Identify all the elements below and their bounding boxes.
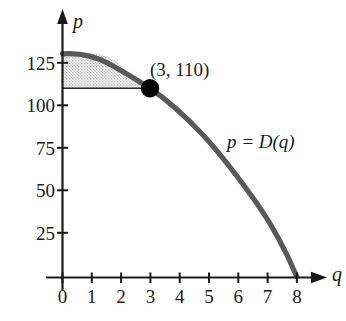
marked-point-dot [141,79,159,97]
x-tick-label-4: 4 [175,287,185,306]
x-axis-label: q [332,264,342,284]
plot-canvas [0,0,346,321]
x-axis-arrowhead [311,272,327,283]
x-tick-label-7: 7 [263,287,273,306]
x-tick-label-3: 3 [146,287,156,306]
y-tick-label-50: 50 [0,181,55,200]
y-axis-arrowhead [57,9,68,24]
x-tick-label-5: 5 [204,287,214,306]
x-tick-label-1: 1 [87,287,97,306]
y-tick-label-25: 25 [0,223,55,242]
x-tick-label-0: 0 [58,287,68,306]
y-tick-label-75: 75 [0,138,55,157]
marked-point-label: (3, 110) [150,60,209,79]
y-axis-label: p [73,11,83,31]
x-tick-label-8: 8 [292,287,302,306]
x-tick-label-2: 2 [116,287,126,306]
y-tick-label-100: 100 [0,96,55,115]
curve-equation-label: p = D(q) [227,132,295,151]
y-tick-label-125: 125 [0,53,55,72]
x-tick-label-6: 6 [234,287,244,306]
demand-curve-figure: 125 100 75 50 25 0 1 2 3 4 5 6 7 8 p q (… [0,0,346,321]
